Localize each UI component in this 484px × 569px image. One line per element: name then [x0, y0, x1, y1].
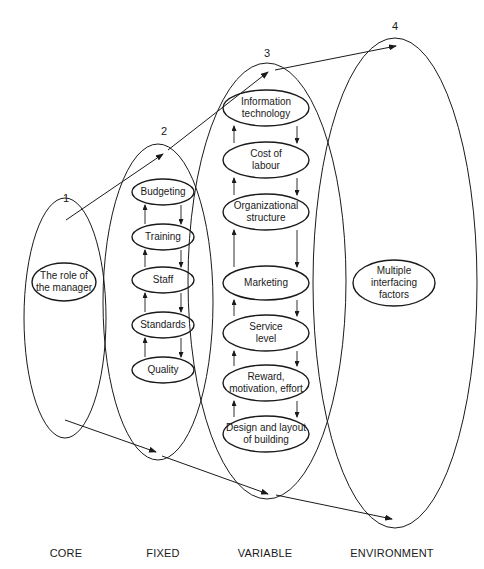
- footer-core: CORE: [50, 547, 83, 559]
- variable-item-design-and-layout: Design and layoutof building: [226, 422, 306, 446]
- fixed-item-training: Training: [145, 231, 181, 243]
- stage-2-number: 2: [161, 125, 167, 137]
- lower-arrow-1-2: [65, 420, 156, 452]
- variable-item-service-level: Servicelevel: [249, 321, 282, 345]
- variable-item-organizational-structure: Organizationalstructure: [234, 200, 298, 224]
- fixed-item-quality: Quality: [147, 364, 178, 376]
- core-item-role-of-manager: The role ofthe manager: [36, 270, 92, 294]
- footer-environment: ENVIRONMENT: [350, 547, 433, 559]
- environment-item-multiple-interfacing-factors: Multipleinterfacingfactors: [371, 265, 417, 301]
- fixed-item-staff: Staff: [153, 274, 173, 286]
- footer-variable: VARIABLE: [238, 547, 293, 559]
- footer-fixed: FIXED: [146, 547, 179, 559]
- fixed-item-budgeting: Budgeting: [140, 186, 185, 198]
- variable-item-marketing: Marketing: [244, 277, 288, 289]
- stage-1-core-ellipse: [24, 198, 106, 438]
- stage-1-number: 1: [63, 192, 69, 204]
- lower-arrow-3-4: [276, 495, 392, 519]
- variable-item-reward-motivation-effort: Reward,motivation, effort: [229, 371, 303, 395]
- fixed-item-standards: Standards: [140, 319, 186, 331]
- variable-item-information-technology: Informationtechnology: [241, 96, 291, 120]
- stage-4-number: 4: [392, 20, 398, 32]
- variable-item-cost-of-labour: Cost oflabour: [250, 148, 282, 172]
- lower-arrow-2-3: [162, 456, 268, 494]
- stage-3-number: 3: [264, 47, 270, 59]
- upper-arrow-3-4: [275, 46, 396, 70]
